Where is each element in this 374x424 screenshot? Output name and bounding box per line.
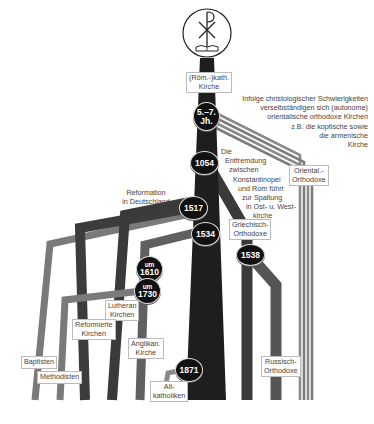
node-1517: 1517 <box>179 196 208 220</box>
label-line: katholiken <box>153 392 185 401</box>
label-line: Kirche <box>189 83 229 92</box>
node-5-7-jh: 5.–7. Jh. <box>193 102 220 131</box>
anglican-label: Anglikan. Kirche <box>128 338 164 359</box>
oriental-note: Infolge christologischer Schwierigkeiten… <box>226 94 368 149</box>
reformation-note: Reformation in Deutschland <box>114 189 178 206</box>
oriental-orthodox-label: Oriental.- Orthodoxe <box>289 165 329 186</box>
russian-orthodox-label: Russisch- Orthodoxe <box>261 356 301 377</box>
label-line: Kirchen <box>75 330 113 339</box>
label-line: Methodisten <box>40 373 79 382</box>
node-1534: 1534 <box>191 222 220 246</box>
node-text: 1610 <box>140 268 159 277</box>
label-line: Orthodoxe <box>232 230 268 239</box>
chi-rho-bible-icon <box>183 9 231 57</box>
label-line: Orthodoxe <box>264 367 298 376</box>
lutheran-label: Lutheran Kirchen <box>105 300 139 321</box>
note-line: zur Spaltung <box>242 193 296 202</box>
note-line: orientalische orthodoxe Kirchen <box>226 112 368 121</box>
node-text: 1871 <box>180 366 199 375</box>
baptists-label: Baptisten <box>21 356 57 369</box>
note-line: und Rom führt <box>238 184 296 193</box>
label-line: Kirchen <box>108 311 136 320</box>
note-line: zwischen <box>229 165 296 174</box>
note-line: in Deutschland <box>114 198 178 207</box>
node-text: 1534 <box>196 230 215 239</box>
church-history-diagram: (Röm.-)kath. Kirche 5.–7. Jh. 1054 1517 … <box>0 0 374 424</box>
node-text: 1538 <box>241 251 260 260</box>
label-line: Orthodoxe <box>292 176 326 185</box>
russian-orthodox-branch <box>252 258 276 400</box>
node-1054: 1054 <box>190 151 219 175</box>
note-line: Entfremdung <box>225 156 296 165</box>
node-1538: 1538 <box>236 244 265 266</box>
note-line: z.B. die koptische sowie <box>226 122 368 131</box>
roman-catholic-label: (Röm.-)kath. Kirche <box>186 72 232 93</box>
node-text: 1730 <box>138 290 157 299</box>
old-catholics-label: Alt- katholiken <box>150 381 188 402</box>
greek-orthodox-label: Griechisch- Orthodoxe <box>229 219 271 240</box>
node-text: 1054 <box>195 159 214 168</box>
note-line: verselbständigen sich (autonome) <box>226 103 368 112</box>
note-line: die armenische <box>226 131 368 140</box>
note-line: Infolge christologischer Schwierigkeiten <box>226 94 368 103</box>
node-text: Jh. <box>200 117 212 126</box>
label-line: Baptisten <box>24 358 54 367</box>
node-text: 1517 <box>184 204 203 213</box>
node-1871: 1871 <box>175 358 203 382</box>
note-line: in Ost- u. West- <box>246 202 296 211</box>
reformed-label: Reformierte Kirchen <box>72 319 116 340</box>
schism-note: Die Entfremdung zwischen Konstantinopel … <box>221 147 296 221</box>
methodists-label: Methodisten <box>37 371 82 384</box>
note-line: Die <box>221 147 296 156</box>
label-line: Kirche <box>131 349 161 358</box>
note-line: Konstantinopel <box>233 175 296 184</box>
